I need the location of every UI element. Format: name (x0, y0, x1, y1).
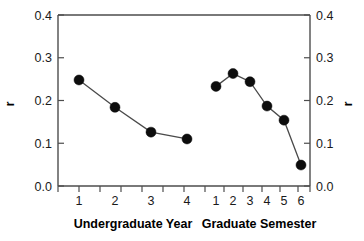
right-axis-ticks (304, 15, 310, 186)
data-point (211, 81, 221, 91)
right-axis-tick-labels: 0.4 0.3 0.2 0.1 0.0 (316, 9, 333, 194)
left-axis-ticks (58, 15, 64, 186)
left-tick-label-0.3: 0.3 (35, 51, 52, 65)
right-tick-label-0.3: 0.3 (316, 51, 333, 65)
chart-figure: 0.4 0.3 0.2 0.1 0.0 r 0.4 0.3 0.2 0.1 0.… (0, 0, 364, 241)
data-point (110, 102, 120, 112)
left-tick-label-0.1: 0.1 (35, 137, 52, 151)
data-point (296, 160, 306, 170)
graduate-tick-4: 4 (264, 194, 271, 208)
right-tick-label-0.1: 0.1 (316, 137, 333, 151)
left-tick-label-0.4: 0.4 (35, 9, 52, 23)
right-axis-label: r (341, 101, 355, 106)
undergraduate-tick-labels: 1 2 3 4 (76, 194, 191, 208)
graduate-tick-labels: 1 2 3 4 5 6 (213, 194, 305, 208)
graduate-tick-5: 5 (281, 194, 288, 208)
plot-frame (58, 15, 310, 186)
undergraduate-group-title: Undergraduate Year (74, 217, 193, 231)
graduate-tick-3: 3 (247, 194, 254, 208)
data-point (182, 134, 192, 144)
graduate-tick-1: 1 (213, 194, 220, 208)
undergraduate-axis-ticks (58, 186, 184, 192)
data-point (228, 69, 238, 79)
graduate-tick-2: 2 (230, 194, 237, 208)
data-point (146, 127, 156, 137)
left-axis-tick-labels: 0.4 0.3 0.2 0.1 0.0 (35, 9, 52, 194)
data-point (74, 75, 84, 85)
left-tick-label-0.0: 0.0 (35, 180, 52, 194)
data-point (245, 77, 255, 87)
data-point (262, 101, 272, 111)
graduate-axis-ticks (205, 186, 310, 192)
right-tick-label-0.2: 0.2 (316, 94, 333, 108)
graduate-group-title: Graduate Semester (202, 217, 317, 231)
graduate-tick-6: 6 (298, 194, 305, 208)
right-tick-label-0.0: 0.0 (316, 180, 333, 194)
undergraduate-tick-1: 1 (76, 194, 83, 208)
series-line-1 (79, 80, 187, 139)
line-chart: 0.4 0.3 0.2 0.1 0.0 r 0.4 0.3 0.2 0.1 0.… (0, 0, 364, 241)
undergraduate-tick-4: 4 (184, 194, 191, 208)
undergraduate-tick-3: 3 (148, 194, 155, 208)
right-tick-label-0.4: 0.4 (316, 9, 333, 23)
left-axis-label: r (3, 101, 17, 106)
undergraduate-tick-2: 2 (112, 194, 119, 208)
data-point (279, 115, 289, 125)
series-layer (74, 69, 306, 170)
left-tick-label-0.2: 0.2 (35, 94, 52, 108)
